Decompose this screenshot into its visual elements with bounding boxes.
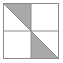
shaded-square-diagram: [0, 0, 63, 63]
figure-canvas: [0, 0, 63, 63]
